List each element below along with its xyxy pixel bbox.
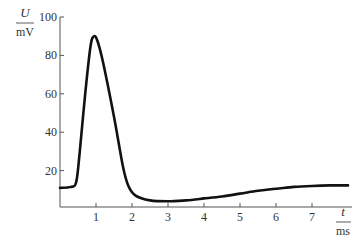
y-tick-label: 40 [45, 125, 57, 139]
x-axis-unit: ms [336, 224, 350, 238]
y-axis-unit: mV [16, 25, 34, 39]
x-tick-label: 5 [237, 210, 243, 224]
x-axis-variable: t [341, 204, 345, 219]
x-tick-label: 2 [129, 210, 135, 224]
x-axis-label: t ms [336, 204, 351, 238]
x-axis: 1234567 [60, 203, 352, 224]
y-tick-label: 60 [45, 87, 57, 101]
series-line [60, 36, 348, 201]
x-tick-label: 4 [201, 210, 207, 224]
chart: 20406080100 1234567 U mV t ms [0, 0, 361, 247]
y-tick-label: 80 [45, 48, 57, 62]
y-tick-label: 100 [39, 10, 57, 24]
x-tick-label: 7 [309, 210, 315, 224]
y-axis-label: U mV [16, 5, 34, 39]
x-tick-label: 3 [165, 210, 171, 224]
x-tick-label: 6 [273, 210, 279, 224]
y-axis: 20406080100 [39, 10, 64, 207]
y-axis-variable: U [20, 5, 31, 20]
y-tick-label: 20 [45, 164, 57, 178]
x-tick-label: 1 [93, 210, 99, 224]
